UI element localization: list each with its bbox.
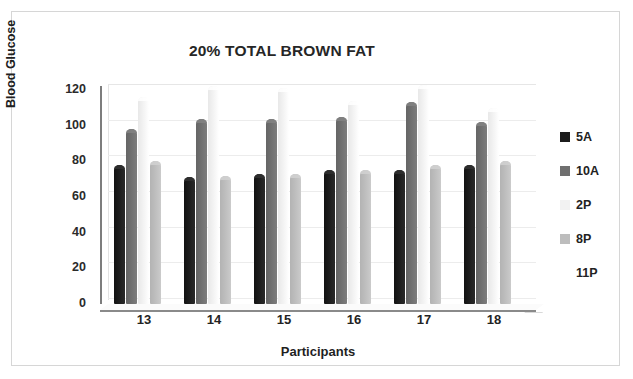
y-axis-title: Blood Glucose: [4, 20, 18, 108]
bar-2P-14: [208, 86, 219, 304]
x-tick-17: 17: [394, 312, 454, 327]
bar-cap: [418, 85, 429, 89]
bar-cap: [196, 119, 207, 123]
y-tick-120: 120: [52, 82, 86, 96]
legend-label-8P: 8P: [576, 232, 591, 246]
chart-title: 20% TOTAL BROWN FAT: [12, 42, 552, 60]
bar-group-14: [184, 90, 244, 304]
x-tick-13: 13: [114, 312, 174, 327]
bar-5A-15: [254, 174, 265, 304]
chart-screenshot: 20% TOTAL BROWN FAT 020406080100120 Bloo…: [0, 0, 633, 379]
bar-body: [348, 101, 359, 304]
bar-body: [208, 86, 219, 304]
legend-label-11P: 11P: [576, 266, 598, 280]
bar-body: [126, 129, 137, 304]
bar-body: [430, 165, 441, 304]
bar-2P-17: [418, 85, 429, 304]
bar-cap: [126, 129, 137, 133]
bar-cap: [500, 161, 511, 165]
legend: 5A10A2P8P11P: [560, 120, 633, 290]
bar-body: [336, 117, 347, 304]
bar-body: [476, 122, 487, 304]
y-tick-0: 0: [52, 296, 86, 310]
bar-10A-18: [476, 122, 487, 304]
bar-group-18: [464, 90, 524, 304]
x-tick-16: 16: [324, 312, 384, 327]
y-tick-80: 80: [52, 153, 86, 167]
bar-cap: [406, 102, 417, 106]
bar-body: [360, 170, 371, 304]
bar-5A-16: [324, 170, 335, 304]
bar-8P-14: [220, 176, 231, 304]
bar-cap: [184, 177, 195, 181]
bar-cap: [336, 117, 347, 121]
bar-body: [150, 161, 161, 304]
y-tick-60: 60: [52, 189, 86, 203]
bar-8P-15: [290, 174, 301, 304]
legend-label-10A: 10A: [576, 164, 599, 178]
bar-cap: [150, 161, 161, 165]
legend-label-5A: 5A: [576, 130, 592, 144]
bar-body: [278, 88, 289, 304]
bar-body: [290, 174, 301, 304]
bar-cap: [114, 165, 125, 169]
bar-body: [418, 85, 429, 304]
legend-item-11P[interactable]: 11P: [560, 256, 633, 290]
bar-group-13: [114, 90, 174, 304]
plot-area: [100, 90, 536, 304]
bar-5A-17: [394, 170, 405, 304]
legend-item-8P[interactable]: 8P: [560, 222, 633, 256]
x-tick-15: 15: [254, 312, 314, 327]
bar-body: [220, 176, 231, 304]
legend-label-2P: 2P: [576, 198, 591, 212]
legend-swatch-10A: [560, 166, 570, 176]
bar-body: [406, 102, 417, 304]
x-tick-18: 18: [464, 312, 524, 327]
bar-5A-13: [114, 165, 125, 304]
x-tick-14: 14: [184, 312, 244, 327]
bar-cap: [360, 170, 371, 174]
bar-8P-17: [430, 165, 441, 304]
bar-8P-18: [500, 161, 511, 304]
legend-swatch-11P: [560, 268, 570, 278]
bar-cap: [488, 108, 499, 112]
legend-swatch-8P: [560, 234, 570, 244]
bar-cap: [476, 122, 487, 126]
legend-item-10A[interactable]: 10A: [560, 154, 633, 188]
gridline-120: [108, 84, 536, 85]
bar-body: [394, 170, 405, 304]
bar-body: [196, 119, 207, 304]
x-axis-title: Participants: [100, 344, 536, 359]
bar-body: [254, 174, 265, 304]
bar-cap: [290, 174, 301, 178]
bar-body: [500, 161, 511, 304]
bar-cap: [266, 119, 277, 123]
bar-cap: [278, 88, 289, 92]
bar-10A-13: [126, 129, 137, 304]
y-tick-20: 20: [52, 260, 86, 274]
bar-body: [488, 108, 499, 304]
legend-item-2P[interactable]: 2P: [560, 188, 633, 222]
bar-10A-14: [196, 119, 207, 304]
bar-cap: [254, 174, 265, 178]
bar-2P-13: [138, 97, 149, 304]
y-tick-40: 40: [52, 225, 86, 239]
bar-group-17: [394, 90, 454, 304]
bar-2P-16: [348, 101, 359, 304]
bar-2P-18: [488, 108, 499, 304]
bar-5A-18: [464, 165, 475, 304]
legend-swatch-5A: [560, 132, 570, 142]
bar-cap: [348, 101, 359, 105]
bar-body: [464, 165, 475, 304]
bar-body: [138, 97, 149, 304]
bar-8P-13: [150, 161, 161, 304]
chart-frame: 20% TOTAL BROWN FAT 020406080100120 Bloo…: [11, 11, 620, 366]
bar-body: [266, 119, 277, 304]
bar-10A-17: [406, 102, 417, 304]
bar-cap: [138, 97, 149, 101]
bar-cap: [220, 176, 231, 180]
bar-group-15: [254, 90, 314, 304]
bar-body: [184, 177, 195, 304]
bar-2P-15: [278, 88, 289, 304]
legend-item-5A[interactable]: 5A: [560, 120, 633, 154]
